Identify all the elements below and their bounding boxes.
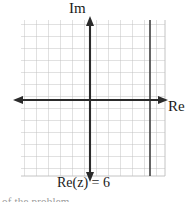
real-axis-arrow-left [13,96,23,104]
real-axis-label: Re [168,99,185,114]
grid-background [21,20,165,176]
imaginary-axis-label: Im [69,1,86,16]
locus-equation-label: Re(z) = 6 [57,176,110,190]
complex-plane-canvas [0,0,195,202]
cropped-caption-text: of the problem. [0,195,195,202]
complex-plane-figure: Im Re Re(z) = 6 of the problem. [0,0,195,202]
